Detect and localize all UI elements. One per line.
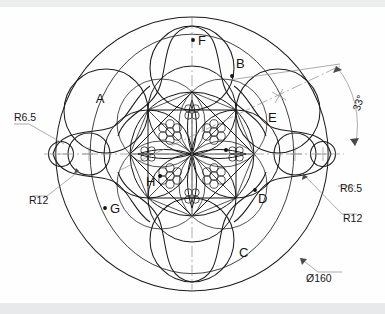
r12-right-text: R12 — [343, 212, 362, 224]
drawing-canvas: 33° Ø160 R6.5 R12 — [0, 0, 385, 314]
dia-arrow — [300, 258, 307, 265]
diameter-callout: Ø160 — [300, 258, 342, 284]
label-d: D — [258, 191, 267, 206]
angle-arrow-end — [350, 138, 359, 146]
label-a: A — [96, 91, 105, 106]
label-b: B — [236, 56, 245, 71]
r12-right-leader — [303, 174, 342, 214]
label-h: H — [146, 174, 155, 189]
label-e: E — [268, 110, 277, 125]
label-f: F — [198, 33, 206, 48]
r12-left-text: R12 — [29, 194, 48, 206]
r12-left-leader — [47, 171, 79, 196]
center-dot-right — [224, 148, 228, 152]
dia-dim-text: Ø160 — [306, 272, 332, 284]
r12-left-callout: R12 — [29, 168, 79, 206]
angle-ref-line-1 — [229, 64, 340, 80]
label-g: G — [110, 201, 120, 216]
r65-right-callout: R6.5 — [338, 182, 362, 194]
center-dot-h — [158, 174, 162, 178]
label-d-dot — [253, 188, 257, 192]
label-b-dot — [230, 74, 234, 78]
label-g-dot — [103, 206, 107, 210]
r65-left-text: R6.5 — [14, 111, 36, 123]
label-f-dot — [191, 38, 195, 42]
technical-drawing-svg: 33° Ø160 R6.5 R12 — [0, 0, 385, 314]
label-c: C — [239, 245, 248, 260]
point-labels: A B C D E F G H — [96, 33, 277, 260]
r65-right-text: R6.5 — [340, 182, 362, 194]
